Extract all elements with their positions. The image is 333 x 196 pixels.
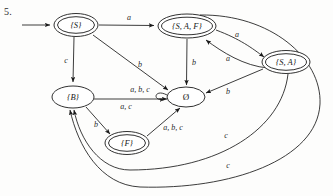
state-empty-set[interactable] [167,87,205,107]
state-SA[interactable] [262,51,310,74]
automaton-figure: 5. [0,0,333,196]
edge-saf-to-empty [187,39,188,85]
state-F[interactable] [105,132,149,155]
edge-s-to-b [73,37,74,82]
edge-b-to-f [86,107,110,134]
automaton-diagram [0,0,333,196]
state-S[interactable] [54,14,98,37]
state-SAF[interactable] [158,14,216,38]
edge-s-to-empty [93,35,168,90]
edge-saf-to-sa [216,30,264,57]
edge-f-to-empty [147,108,180,136]
edge-s-to-saf [99,25,154,26]
edge-sa-to-saf [206,40,268,68]
edge-sa-to-empty [206,69,263,93]
state-B[interactable] [52,86,94,108]
edge-empty-selfloop [156,93,167,99]
